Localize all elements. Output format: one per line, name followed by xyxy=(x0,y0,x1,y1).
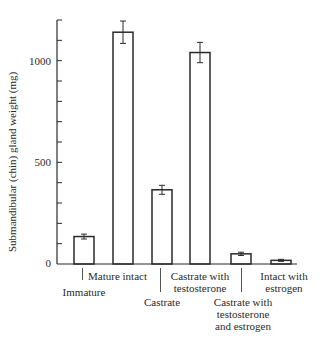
y-tick-label-500: 500 xyxy=(21,156,51,168)
label-line: estrogen xyxy=(252,282,316,294)
label-line: testosterone xyxy=(207,308,279,320)
label-line: and estrogen xyxy=(207,320,279,332)
category-label-castrate-testosterone: Castrate with testosterone xyxy=(164,270,236,294)
bar xyxy=(152,190,172,264)
label-line: Mature intact xyxy=(88,270,158,282)
label-separator xyxy=(82,268,83,280)
y-tick-label-0: 0 xyxy=(21,257,51,269)
category-label-castrate: Castrate xyxy=(132,296,192,308)
category-label-immature: Immature xyxy=(54,286,114,298)
label-line: Castrate with xyxy=(164,270,236,282)
label-line: Castrate xyxy=(132,296,192,308)
category-label-castrate-testosterone-estrogen: Castrate with testosterone and estrogen xyxy=(207,296,279,332)
label-line: testosterone xyxy=(164,282,236,294)
label-line: Intact with xyxy=(252,270,316,282)
label-line: Castrate with xyxy=(207,296,279,308)
label-separator xyxy=(160,268,161,292)
label-separator xyxy=(241,268,242,292)
category-label-intact-estrogen: Intact with estrogen xyxy=(252,270,316,294)
y-axis-label: Submandibular (chin) gland weight (mg) xyxy=(6,72,18,252)
bar xyxy=(190,53,210,264)
y-tick-label-1000: 1000 xyxy=(21,55,51,67)
bar xyxy=(74,237,94,264)
category-label-mature-intact: Mature intact xyxy=(88,270,158,282)
bar xyxy=(113,32,133,264)
label-line: Immature xyxy=(54,286,114,298)
